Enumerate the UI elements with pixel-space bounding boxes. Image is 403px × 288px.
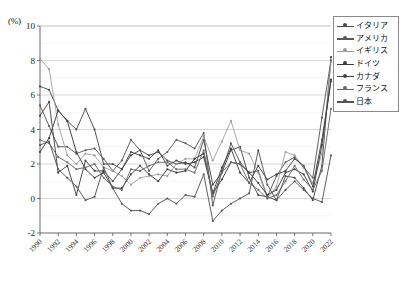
series-point <box>39 104 41 106</box>
series-point <box>94 154 96 156</box>
series-point <box>294 180 296 182</box>
series-point <box>121 189 123 191</box>
series-point <box>275 185 277 187</box>
series-point <box>284 151 286 153</box>
series-point <box>275 173 277 175</box>
y-axis-tick-label: -2 <box>28 228 36 238</box>
series-point <box>248 153 250 155</box>
series-point <box>321 153 323 155</box>
x-axis-tick-label: 1992 <box>45 237 62 254</box>
series-point <box>194 161 196 163</box>
series-point <box>230 147 232 149</box>
x-axis-tick-label: 2010 <box>209 237 226 254</box>
series-point <box>84 160 86 162</box>
series-point <box>239 149 241 151</box>
legend-line-swatch-france <box>337 84 354 94</box>
legend-label-france: フランス <box>356 84 388 94</box>
series-point <box>221 172 223 174</box>
series-point <box>84 149 86 151</box>
series-point <box>157 203 159 205</box>
series-point <box>130 173 132 175</box>
series-point <box>257 189 259 191</box>
x-axis-tick-label: 2016 <box>263 237 280 254</box>
series-point <box>39 85 41 87</box>
x-axis-tick-label: 1998 <box>100 237 117 254</box>
series-point <box>194 158 196 160</box>
series-point <box>275 189 277 191</box>
legend-item-france[interactable]: フランス <box>337 83 396 96</box>
x-axis-tick-label: 1990 <box>27 237 44 254</box>
legend-line-swatch-canada <box>337 72 354 82</box>
legend-label-japan: 日本 <box>356 97 372 107</box>
x-axis-tick-label: 1994 <box>63 237 80 254</box>
series-point <box>284 180 286 182</box>
series-point <box>330 154 332 156</box>
legend-item-usa[interactable]: アメリカ <box>337 33 396 46</box>
legend-item-germany[interactable]: ドイツ <box>337 58 396 71</box>
series-point <box>294 154 296 156</box>
series-point <box>275 199 277 201</box>
series-point <box>303 173 305 175</box>
legend-item-japan[interactable]: 日本 <box>337 96 396 109</box>
series-point <box>239 197 241 199</box>
series-point <box>84 153 86 155</box>
series-point <box>57 156 59 158</box>
series-point <box>184 194 186 196</box>
legend-item-italy[interactable]: イタリア <box>337 20 396 33</box>
series-point <box>130 210 132 212</box>
series-point <box>139 149 141 151</box>
series-point <box>84 108 86 110</box>
series-point <box>166 168 168 170</box>
series-point <box>48 141 50 143</box>
series-line-5 <box>40 109 331 199</box>
series-point <box>284 161 286 163</box>
series-point <box>139 165 141 167</box>
series-point <box>330 108 332 110</box>
series-point <box>130 154 132 156</box>
series-point <box>248 172 250 174</box>
legend-line-swatch-usa <box>337 34 354 44</box>
series-point <box>57 172 59 174</box>
y-axis-tick-label: 4 <box>31 125 36 135</box>
series-point <box>212 204 214 206</box>
series-point <box>266 194 268 196</box>
series-point <box>39 151 41 153</box>
series-point <box>321 139 323 141</box>
y-axis-tick-label: 10 <box>26 21 36 31</box>
x-axis-tick-label: 2018 <box>282 237 299 254</box>
series-point <box>330 80 332 82</box>
series-point <box>130 184 132 186</box>
series-point <box>130 139 132 141</box>
series-point <box>294 177 296 179</box>
series-point <box>130 168 132 170</box>
series-point <box>330 56 332 58</box>
legend-line-swatch-germany <box>337 59 354 69</box>
series-point <box>203 132 205 134</box>
legend-label-germany: ドイツ <box>356 59 380 69</box>
series-point <box>212 196 214 198</box>
series-point <box>166 151 168 153</box>
series-point <box>130 151 132 153</box>
series-point <box>66 146 68 148</box>
series-point <box>284 170 286 172</box>
series-point <box>66 154 68 156</box>
series-point <box>248 182 250 184</box>
legend-label-canada: カナダ <box>356 72 380 82</box>
series-point <box>321 116 323 118</box>
series-point <box>194 172 196 174</box>
series-point <box>303 178 305 180</box>
series-point <box>57 146 59 148</box>
series-point <box>330 61 332 63</box>
legend-line-swatch-uk <box>337 46 354 56</box>
series-point <box>194 147 196 149</box>
legend-label-uk: イギリス <box>356 46 388 56</box>
series-point <box>194 196 196 198</box>
series-point <box>139 177 141 179</box>
series-point <box>121 160 123 162</box>
legend-item-canada[interactable]: カナダ <box>337 70 396 83</box>
x-axis-tick-label: 2002 <box>136 237 153 254</box>
series-point <box>312 197 314 199</box>
legend-item-uk[interactable]: イギリス <box>337 45 396 58</box>
series-point <box>257 165 259 167</box>
series-point <box>121 168 123 170</box>
